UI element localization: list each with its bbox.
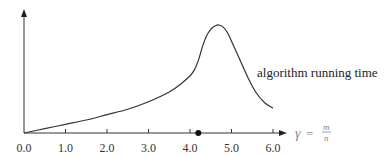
x-label-equals: = <box>306 126 313 141</box>
x-tick-label: 1.0 <box>58 141 73 155</box>
x-tick-label: 5.0 <box>224 141 239 155</box>
x-label-gamma: γ <box>295 126 301 141</box>
x-ticks <box>66 129 274 133</box>
curve-label: algorithm running time <box>257 65 378 80</box>
x-label-denominator: n <box>324 133 329 143</box>
marker-dot <box>195 130 201 136</box>
x-label-numerator: m <box>323 122 330 132</box>
y-axis-arrow-icon <box>21 9 27 17</box>
x-tick-label: 2.0 <box>100 141 115 155</box>
axes <box>21 9 287 136</box>
x-axis-label: γ = m n <box>295 122 331 143</box>
chart: 0.01.02.03.04.05.06.0 algorithm running … <box>0 0 384 157</box>
x-axis-arrow-icon <box>279 130 287 136</box>
x-tick-labels: 0.01.02.03.04.05.06.0 <box>17 141 281 155</box>
x-tick-label: 6.0 <box>266 141 281 155</box>
x-tick-label: 3.0 <box>141 141 156 155</box>
x-tick-label: 4.0 <box>183 141 198 155</box>
running-time-curve <box>24 25 273 133</box>
x-tick-label: 0.0 <box>17 141 32 155</box>
